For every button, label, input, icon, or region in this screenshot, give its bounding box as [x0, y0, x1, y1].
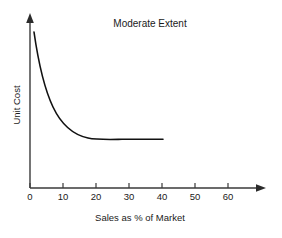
- chart-svg: Moderate Extent 0 10 20 30 40 50 60: [0, 0, 282, 238]
- x-tick-label-20: 20: [91, 191, 102, 202]
- x-tick-label-60: 60: [223, 191, 234, 202]
- chart-figure: Moderate Extent 0 10 20 30 40 50 60: [0, 0, 282, 238]
- x-tick-label-0: 0: [27, 191, 32, 202]
- y-axis-title: Unit Cost: [11, 85, 22, 124]
- x-axis-arrow-icon: [256, 184, 266, 192]
- x-axis-ticks: [30, 183, 228, 188]
- x-axis-tick-labels: 0 10 20 30 40 50 60: [27, 191, 233, 202]
- x-tick-label-50: 50: [190, 191, 201, 202]
- chart-title: Moderate Extent: [113, 18, 187, 29]
- x-tick-label-10: 10: [58, 191, 69, 202]
- unit-cost-curve: [34, 32, 163, 140]
- x-tick-label-40: 40: [157, 191, 168, 202]
- y-axis-arrow-icon: [26, 13, 34, 23]
- x-tick-label-30: 30: [124, 191, 135, 202]
- x-axis-title: Sales as % of Market: [95, 212, 185, 223]
